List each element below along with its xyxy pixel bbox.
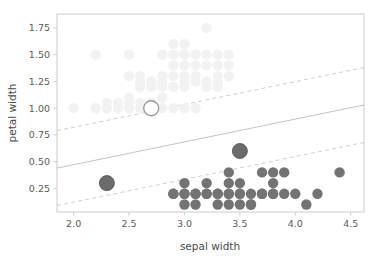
data-point (91, 103, 101, 113)
data-point (224, 189, 234, 199)
data-point (135, 71, 145, 81)
class-foreground-dark (168, 167, 345, 210)
data-point (213, 82, 223, 92)
data-point (224, 71, 234, 81)
data-point (68, 103, 78, 113)
data-point (201, 60, 211, 70)
data-point (257, 189, 267, 199)
data-point (301, 199, 311, 209)
data-point (168, 103, 178, 113)
data-point (201, 23, 211, 33)
x-axis-ticks: 2.02.53.03.54.04.5 (66, 212, 358, 229)
data-point (179, 82, 189, 92)
data-point (224, 49, 234, 59)
data-point (312, 189, 322, 199)
data-points (68, 23, 344, 210)
data-point (224, 60, 234, 70)
data-point (232, 143, 247, 158)
data-point (235, 199, 245, 209)
data-point (157, 49, 167, 59)
data-point (201, 82, 211, 92)
data-point (190, 60, 200, 70)
data-point (213, 60, 223, 70)
data-point (279, 189, 289, 199)
data-point (113, 98, 123, 108)
data-point (334, 167, 344, 177)
x-axis-title: sepal width (180, 240, 240, 252)
data-point (224, 178, 234, 188)
data-point (179, 60, 189, 70)
data-point (201, 178, 211, 188)
data-point (213, 189, 223, 199)
data-point (224, 167, 234, 177)
data-point (190, 76, 200, 86)
data-point (179, 189, 189, 199)
data-point (213, 71, 223, 81)
data-point (224, 199, 234, 209)
data-point (157, 92, 167, 102)
data-point (190, 49, 200, 59)
data-point (268, 189, 278, 199)
data-point (235, 178, 245, 188)
data-point (213, 49, 223, 59)
data-point (290, 189, 300, 199)
data-point (246, 189, 256, 199)
data-point (168, 71, 178, 81)
y-tick-label: 0.50 (29, 156, 50, 167)
data-point (179, 178, 189, 188)
data-point (190, 103, 200, 113)
x-tick-label: 2.0 (66, 218, 81, 229)
data-point (124, 71, 134, 81)
data-point (246, 199, 256, 209)
y-tick-label: 1.75 (29, 22, 50, 33)
data-point (168, 60, 178, 70)
y-axis-title: petal width (6, 84, 18, 143)
data-point (168, 82, 178, 92)
data-point (124, 49, 134, 59)
data-point (201, 49, 211, 59)
data-point (124, 98, 134, 108)
data-point (179, 49, 189, 59)
scatter-plot-figure: 0.250.500.751.001.251.501.75 2.02.53.03.… (0, 0, 380, 257)
x-tick-label: 4.5 (343, 218, 358, 229)
data-point (179, 103, 189, 113)
data-point (157, 76, 167, 86)
x-tick-label: 3.0 (177, 218, 192, 229)
x-tick-label: 4.0 (288, 218, 303, 229)
data-point (168, 189, 178, 199)
class-background-light (68, 23, 234, 114)
data-point (144, 101, 159, 116)
support-vector-open (144, 101, 159, 116)
data-point (213, 199, 223, 209)
y-tick-label: 0.75 (29, 129, 50, 140)
data-point (268, 167, 278, 177)
margin-upper (57, 68, 364, 131)
data-point (146, 82, 156, 92)
data-point (168, 39, 178, 49)
data-point (201, 189, 211, 199)
data-point (190, 199, 200, 209)
data-point (91, 49, 101, 59)
data-point (190, 189, 200, 199)
y-tick-label: 1.50 (29, 49, 50, 60)
y-tick-label: 0.25 (29, 183, 50, 194)
data-point (179, 39, 189, 49)
data-point (99, 176, 114, 191)
data-point (179, 199, 189, 209)
plot-canvas: 0.250.500.751.001.251.501.75 2.02.53.03.… (0, 0, 380, 257)
data-point (168, 49, 178, 59)
x-tick-label: 3.5 (232, 218, 247, 229)
data-point (102, 98, 112, 108)
y-tick-label: 1.00 (29, 103, 50, 114)
data-point (279, 167, 289, 177)
x-tick-label: 2.5 (121, 218, 136, 229)
data-point (268, 178, 278, 188)
y-axis-ticks: 0.250.500.751.001.251.501.75 (29, 22, 57, 194)
data-point (235, 189, 245, 199)
y-tick-label: 1.25 (29, 76, 50, 87)
decision-boundary (57, 105, 364, 168)
data-point (257, 167, 267, 177)
